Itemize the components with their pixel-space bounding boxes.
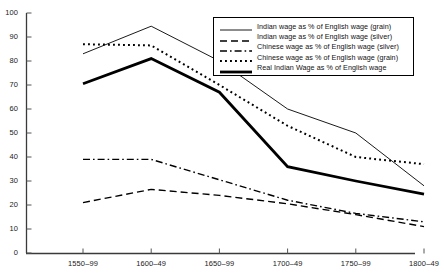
y-axis-tick-label: 30 bbox=[0, 176, 18, 185]
chart-legend: Indian wage as % of English wage (grain)… bbox=[213, 17, 414, 76]
y-axis-tick-label: 100 bbox=[0, 8, 18, 17]
legend-item-label: Chinese wage as % of English wage (grain… bbox=[257, 53, 398, 62]
y-axis-tick-label: 90 bbox=[0, 32, 18, 41]
y-axis-tick-label: 10 bbox=[0, 224, 18, 233]
legend-line-swatch bbox=[219, 63, 253, 73]
x-axis-tick-label: 1700–49 bbox=[258, 259, 318, 268]
legend-item-label: Real Indian Wage as % of English wage bbox=[257, 63, 386, 72]
series-line-2 bbox=[83, 159, 424, 221]
x-axis-tick-label: 1650–99 bbox=[189, 259, 249, 268]
x-axis-tick-label: 1750–99 bbox=[326, 259, 386, 268]
x-axis-tick-label: 1600–49 bbox=[121, 259, 181, 268]
legend-line-swatch bbox=[219, 52, 253, 62]
legend-item: Indian wage as % of English wage (grain) bbox=[214, 21, 413, 31]
legend-item: Real Indian Wage as % of English wage bbox=[214, 63, 413, 73]
legend-item-label: Indian wage as % of English wage (silver… bbox=[257, 32, 392, 41]
y-axis-tick-label: 60 bbox=[0, 104, 18, 113]
legend-item-label: Indian wage as % of English wage (grain) bbox=[257, 22, 391, 31]
legend-line-swatch bbox=[219, 21, 253, 31]
y-axis-tick-label: 50 bbox=[0, 128, 18, 137]
series-line-1 bbox=[83, 189, 424, 226]
y-axis-tick-label: 70 bbox=[0, 80, 18, 89]
x-axis-tick-label: 1800–49 bbox=[394, 259, 444, 268]
legend-item-label: Chinese wage as % of English wage (silve… bbox=[257, 42, 399, 51]
legend-item: Chinese wage as % of English wage (grain… bbox=[214, 52, 413, 62]
legend-item: Chinese wage as % of English wage (silve… bbox=[214, 42, 413, 52]
x-axis-tick-label: 1550–99 bbox=[53, 259, 113, 268]
y-axis-tick-label: 20 bbox=[0, 200, 18, 209]
y-axis-tick-label: 0 bbox=[0, 248, 18, 257]
y-axis-tick-label: 80 bbox=[0, 56, 18, 65]
legend-line-swatch bbox=[219, 32, 253, 42]
y-axis-tick-label: 40 bbox=[0, 152, 18, 161]
legend-line-swatch bbox=[219, 42, 253, 52]
legend-item: Indian wage as % of English wage (silver… bbox=[214, 31, 413, 41]
x-axis-ticks bbox=[83, 249, 424, 254]
y-axis-ticks bbox=[27, 13, 32, 253]
series-line-4 bbox=[83, 59, 424, 195]
